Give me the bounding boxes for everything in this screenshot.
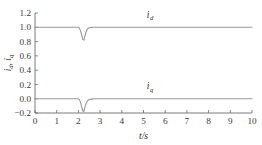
series-label-subscript: d: [150, 14, 154, 21]
series-label-subscript: q: [150, 86, 154, 93]
y-tick-label: −0.2: [14, 108, 31, 118]
x-tick-label: 10: [247, 116, 257, 126]
y-tick-label: 0.0: [20, 94, 32, 104]
series-annotation-i_q: iq: [147, 81, 154, 92]
y-title-iq-sub: q: [7, 54, 14, 58]
y-tick-label: 0.6: [20, 51, 32, 61]
series-annotation-i_d: id: [147, 10, 154, 21]
y-tick-label: 0.4: [20, 65, 32, 75]
x-tick-label: 7: [185, 116, 190, 126]
x-tick-label: 9: [228, 116, 233, 126]
series-label-main: id: [147, 10, 154, 21]
y-tick-label: 0.8: [20, 37, 32, 47]
y-tick-label: 1.2: [20, 8, 32, 18]
x-tick-label: 5: [141, 116, 146, 126]
x-tick-label: 1: [54, 116, 59, 126]
x-tick-label: 2: [76, 116, 81, 126]
line-chart: −0.20.00.20.40.60.81.01.2012345678910 id…: [0, 0, 262, 145]
series-line-i_d: [35, 27, 252, 40]
x-tick-label: 4: [120, 116, 125, 126]
x-tick-label: 3: [98, 116, 103, 126]
x-axis-title: t/s: [139, 131, 148, 141]
y-tick-label: 0.2: [20, 80, 32, 90]
axes-layer: −0.20.00.20.40.60.81.01.2012345678910: [14, 8, 257, 125]
chart-figure: −0.20.00.20.40.60.81.01.2012345678910 id…: [0, 0, 262, 145]
series-label-main: iq: [147, 81, 154, 92]
x-tick-label: 6: [163, 116, 168, 126]
x-tick-label: 0: [33, 116, 38, 126]
x-tick-label: 8: [206, 116, 211, 126]
curves-layer: [35, 27, 252, 111]
series-line-i_q: [35, 99, 252, 112]
y-axis-title-text: id, iq: [3, 54, 14, 71]
y-tick-label: 1.0: [20, 22, 32, 32]
y-axis-title: id, iq: [3, 54, 14, 71]
